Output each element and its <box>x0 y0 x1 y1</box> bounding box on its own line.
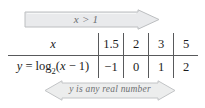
cell-y-0: −1 <box>99 56 124 79</box>
value-table: x 1.5 2 3 5 y = log2(x − 1) −1 0 1 2 <box>8 33 198 78</box>
range-arrow-label: y is any real number <box>44 84 176 94</box>
row-label-y-log: log <box>36 59 52 73</box>
logarithm-table-figure: x > 1 x 1.5 2 3 5 y = log2(x − 1) −1 0 1… <box>0 0 205 108</box>
row-label-y-paren-close: ) <box>85 59 89 73</box>
cell-x-0: 1.5 <box>99 33 124 56</box>
domain-arrow-label: x > 1 <box>24 13 148 25</box>
cell-x-3: 5 <box>174 33 199 56</box>
row-label-y: y = log2(x − 1) <box>8 56 99 79</box>
row-label-y-minus: − <box>69 59 76 73</box>
table-row-x: x 1.5 2 3 5 <box>8 33 198 56</box>
cell-y-2: 1 <box>149 56 174 79</box>
cell-x-1: 2 <box>124 33 149 56</box>
row-label-x: x <box>8 33 99 56</box>
range-arrow-label-var: y is any real number <box>69 84 151 94</box>
cell-x-2: 3 <box>149 33 174 56</box>
cell-y-1: 0 <box>124 56 149 79</box>
table-row-y: y = log2(x − 1) −1 0 1 2 <box>8 56 198 79</box>
cell-y-3: 2 <box>174 56 199 79</box>
